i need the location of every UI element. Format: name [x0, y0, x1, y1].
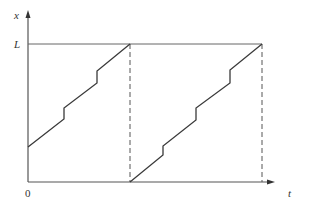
- x-axis-arrow-icon: [267, 180, 275, 185]
- sawtooth-curve-1: [28, 44, 130, 147]
- position-time-diagram: x L 0 t: [0, 0, 309, 206]
- y-axis-arrow-icon: [26, 10, 31, 18]
- sawtooth-curve-2: [130, 44, 262, 182]
- x-axis-label: t: [288, 187, 292, 199]
- y-axis-label: x: [13, 9, 19, 21]
- level-label: L: [13, 38, 20, 50]
- origin-label: 0: [25, 187, 31, 199]
